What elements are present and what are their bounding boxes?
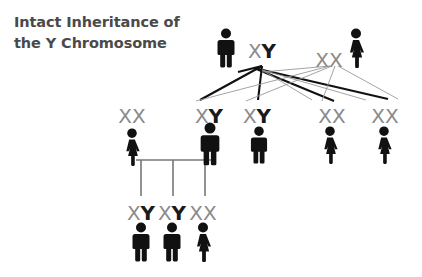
karyotype-g1-mother: XX — [315, 50, 342, 70]
chromosome-x-glyph-2: X — [132, 104, 146, 128]
figure-g3-daughter-1 — [192, 222, 214, 262]
chromosome-y-glyph: Y — [262, 39, 276, 63]
chromosome-x-glyph: X — [371, 104, 385, 128]
figure-g1-father — [215, 28, 237, 68]
figure-g2-daughter-2 — [373, 126, 395, 164]
pedigree-diagram: Intact Inheritance of the Y Chromosome — [0, 0, 422, 277]
chromosome-y-glyph: Y — [172, 201, 186, 225]
paternal-link-to-daughter-2 — [254, 68, 388, 99]
karyotype-g2-daughter-2: XX — [371, 106, 398, 126]
chromosome-y-glyph: Y — [257, 104, 271, 128]
karyotype-g2-spouse: XX — [118, 106, 145, 126]
paternal-link-to-son-1 — [200, 66, 262, 100]
chromosome-x-glyph: X — [195, 104, 209, 128]
chromosome-x-glyph-2: X — [385, 104, 399, 128]
chromosome-x-glyph: X — [189, 201, 203, 225]
karyotype-g2-son-2: XY — [243, 106, 271, 126]
chromosome-x-glyph-2: X — [332, 104, 346, 128]
chromosome-x-glyph-2: X — [203, 201, 217, 225]
maternal-crossing-line-a — [262, 70, 366, 100]
figure-g2-son-1 — [197, 122, 223, 166]
karyotype-g3-daughter-1: XX — [189, 203, 216, 223]
maternal-inheritance-lines — [196, 66, 398, 101]
chromosome-x-glyph: X — [118, 104, 132, 128]
figure-g2-spouse — [121, 128, 143, 166]
maternal-crossing-line-b — [262, 70, 312, 100]
chromosome-x-glyph: X — [243, 104, 257, 128]
chromosome-x-glyph: X — [318, 104, 332, 128]
chromosome-y-glyph: Y — [141, 201, 155, 225]
karyotype-g2-son-1: XY — [195, 106, 223, 126]
karyotype-g3-son-1: XY — [127, 203, 155, 223]
figure-g2-son-2 — [248, 126, 270, 164]
chromosome-x-glyph-2: X — [329, 48, 343, 72]
chromosome-x-glyph: X — [248, 39, 262, 63]
chromosome-x-glyph: X — [127, 201, 141, 225]
figure-g3-son-2 — [161, 222, 183, 262]
chromosome-x-glyph: X — [158, 201, 172, 225]
chromosome-x-glyph: X — [315, 48, 329, 72]
paternal-inheritance-lines — [200, 66, 388, 101]
karyotype-g2-daughter-1: XX — [318, 106, 345, 126]
figure-g3-son-1 — [130, 222, 152, 262]
karyotype-g3-son-2: XY — [158, 203, 186, 223]
figure-g1-mother — [345, 28, 367, 68]
chromosome-y-glyph: Y — [209, 104, 223, 128]
karyotype-g1-father: XY — [248, 41, 276, 61]
figure-g2-daughter-1 — [319, 126, 341, 164]
